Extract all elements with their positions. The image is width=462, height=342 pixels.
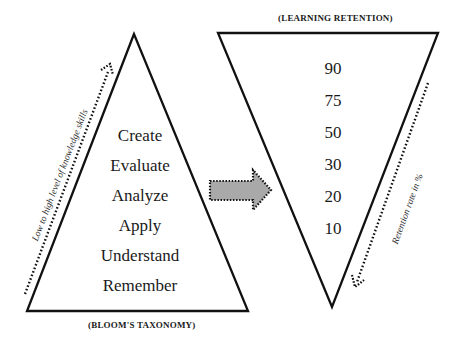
knowledge-arrow-head-icon	[101, 64, 113, 75]
retention-value-10: 10	[303, 219, 363, 239]
bloom-caption: (BLOOM'S TAXONOMY)	[88, 320, 196, 330]
connector-arrow-icon	[210, 170, 271, 210]
bloom-level-remember: Remember	[80, 276, 200, 296]
retention-value-50: 50	[303, 123, 363, 143]
retention-value-75: 75	[303, 91, 363, 111]
diagram-canvas: (LEARNING RETENTION) (BLOOM'S TAXONOMY) …	[0, 0, 462, 342]
diagram-shapes	[0, 0, 462, 342]
retention-value-30: 30	[303, 155, 363, 175]
bloom-level-understand: Understand	[80, 246, 200, 266]
retention-value-20: 20	[303, 187, 363, 207]
retention-caption: (LEARNING RETENTION)	[278, 13, 393, 23]
bloom-level-create: Create	[80, 126, 200, 146]
bloom-level-evaluate: Evaluate	[80, 156, 200, 176]
retention-value-90: 90	[303, 59, 363, 79]
bloom-level-apply: Apply	[80, 216, 200, 236]
bloom-level-analyze: Analyze	[80, 186, 200, 206]
